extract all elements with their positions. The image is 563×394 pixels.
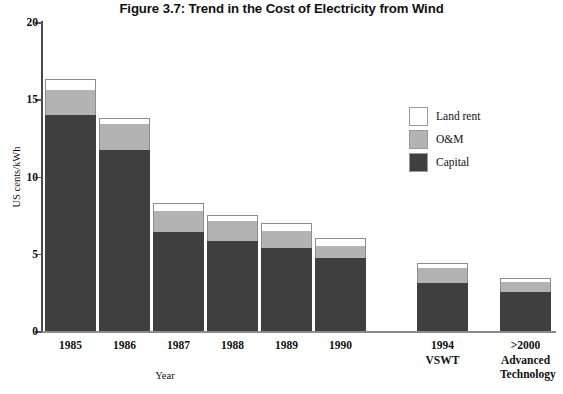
x-tick-label-line: 1987	[153, 338, 204, 353]
x-tick-label-1985: 1985	[45, 338, 96, 353]
x-tick-label-1994: 1994VSWT	[417, 338, 468, 367]
x-axis-line	[41, 331, 556, 333]
x-tick-label-1987: 1987	[153, 338, 204, 353]
y-tick-label: 20	[27, 16, 39, 28]
x-tick-label-line: 1990	[315, 338, 366, 353]
x-tick-label-1988: 1988	[207, 338, 258, 353]
y-axis-title: US cents/kWh	[11, 146, 22, 207]
bar-segment-om	[153, 211, 204, 233]
legend-item-land-rent: Land rent	[409, 105, 559, 127]
x-axis-title: Year	[0, 370, 330, 381]
legend-swatch	[409, 130, 428, 149]
bar-segment-om	[207, 221, 258, 241]
legend-label: Capital	[436, 156, 469, 168]
x-tick-label-line: 1985	[45, 338, 96, 353]
bar-1989	[261, 223, 312, 331]
x-tick-label-line: 1988	[207, 338, 258, 353]
x-tick-label-1990: 1990	[315, 338, 366, 353]
y-tick-label: 10	[27, 171, 39, 183]
x-tick-label--2000: >2000AdvancedTechnology	[500, 338, 551, 382]
x-tick-label-line: Technology	[500, 367, 551, 382]
legend-label: Land rent	[436, 110, 480, 122]
bar-segment-om	[315, 246, 366, 258]
x-tick-label-line: 1989	[261, 338, 312, 353]
x-tick-label-line: 1994	[417, 338, 468, 353]
legend-item-capital: Capital	[409, 151, 559, 173]
bar-segment-capital	[207, 241, 258, 331]
bar-1986	[99, 118, 150, 331]
x-tick-label-line: Advanced	[500, 353, 551, 368]
bar-segment-om	[45, 90, 96, 115]
bar-segment-land-rent	[261, 223, 312, 231]
x-tick-label-line: VSWT	[417, 353, 468, 368]
legend-label: O&M	[436, 133, 463, 145]
bar-1988	[207, 215, 258, 331]
bar-segment-om	[500, 282, 551, 293]
bar-segment-om	[261, 231, 312, 248]
chart-legend: Land rentO&MCapital	[409, 105, 559, 174]
legend-item-o-m: O&M	[409, 128, 559, 150]
bar--2000-advanced-technology	[500, 278, 551, 331]
chart-title: Figure 3.7: Trend in the Cost of Electri…	[0, 1, 563, 16]
bar-1987	[153, 203, 204, 331]
x-tick-label-line: 1986	[99, 338, 150, 353]
bar-segment-land-rent	[45, 79, 96, 90]
bar-segment-om	[417, 268, 468, 283]
bar-1990	[315, 238, 366, 331]
bar-segment-capital	[500, 292, 551, 331]
bar-segment-land-rent	[315, 238, 366, 246]
legend-swatch	[409, 153, 428, 172]
bar-segment-capital	[261, 248, 312, 331]
x-tick-label-line: >2000	[500, 338, 551, 353]
legend-swatch	[409, 107, 428, 126]
bar-segment-capital	[417, 283, 468, 331]
bar-segment-om	[99, 124, 150, 150]
bar-segment-capital	[315, 258, 366, 331]
bar-1994-vswt	[417, 263, 468, 331]
bar-1985	[45, 79, 96, 331]
bar-segment-land-rent	[153, 203, 204, 211]
x-tick-label-1986: 1986	[99, 338, 150, 353]
plot-area: US cents/kWh 05101520	[42, 22, 556, 331]
y-tick-label: 15	[27, 93, 39, 105]
bar-segment-capital	[99, 150, 150, 331]
bar-segment-capital	[153, 232, 204, 331]
y-tick-label: 5	[32, 248, 38, 260]
y-tick-label: 0	[32, 325, 38, 337]
bar-segment-capital	[45, 115, 96, 331]
x-tick-label-1989: 1989	[261, 338, 312, 353]
